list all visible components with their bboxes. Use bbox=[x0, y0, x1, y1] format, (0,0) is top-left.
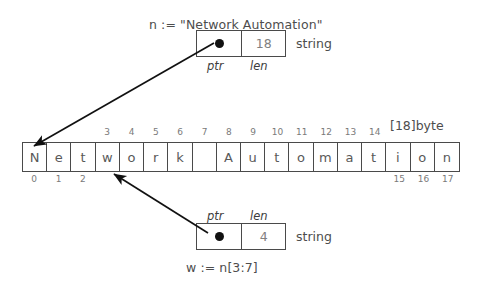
pointer-arrows bbox=[0, 0, 480, 285]
diagram-canvas: n := "Network Automation" 18 ptr len str… bbox=[0, 0, 480, 285]
arrow-n-ptr-to-index-0 bbox=[34, 43, 214, 146]
arrow-w-ptr-to-index-3 bbox=[114, 174, 208, 233]
